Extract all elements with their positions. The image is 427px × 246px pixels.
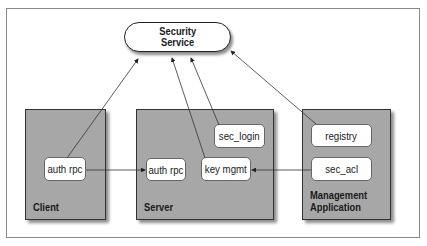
registry-label: registry bbox=[326, 130, 358, 142]
server-key-mgmt-node: key mgmt bbox=[201, 157, 251, 181]
management-label-line1: Management bbox=[310, 189, 367, 201]
server-label: Server bbox=[144, 201, 173, 213]
sec-acl-node: sec_acl bbox=[311, 157, 372, 181]
client-auth-rpc-label: auth rpc bbox=[48, 163, 83, 175]
server-sec-login-node: sec_login bbox=[214, 124, 265, 148]
sec-login-label: sec_login bbox=[219, 130, 260, 142]
registry-node: registry bbox=[311, 124, 372, 147]
key-mgmt-label: key mgmt bbox=[205, 163, 247, 175]
sec-acl-label: sec_acl bbox=[325, 163, 358, 175]
management-label-line2: Application bbox=[310, 201, 361, 213]
security-service-node: Security Service bbox=[124, 22, 231, 52]
client-auth-rpc-node: auth rpc bbox=[44, 157, 86, 181]
client-label: Client bbox=[33, 201, 59, 213]
server-auth-rpc-node: auth rpc bbox=[146, 158, 186, 181]
server-auth-rpc-label: auth rpc bbox=[149, 164, 184, 176]
security-service-label-line2: Service bbox=[161, 37, 194, 48]
